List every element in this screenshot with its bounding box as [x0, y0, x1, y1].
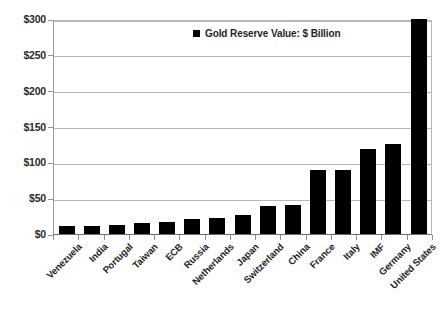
bar	[411, 19, 427, 234]
y-axis-tick-label: $50	[2, 193, 46, 203]
bar	[134, 223, 150, 234]
bar-slot	[205, 21, 230, 234]
y-axis-tick-mark	[48, 91, 53, 92]
x-axis-tick-mark	[432, 235, 433, 240]
y-axis-tick-mark	[48, 127, 53, 128]
bar-slot	[180, 21, 205, 234]
bar	[385, 144, 401, 234]
bar	[159, 222, 175, 234]
y-axis-tick-label: $200	[2, 86, 46, 96]
bar	[360, 149, 376, 234]
bar	[260, 206, 276, 234]
bar-slot	[356, 21, 381, 234]
y-axis-tick-mark	[48, 20, 53, 21]
bar-slot	[280, 21, 305, 234]
bar-slot	[230, 21, 255, 234]
y-axis-tick-label: $300	[2, 14, 46, 24]
legend-swatch-icon	[193, 30, 200, 37]
gold-reserve-bar-chart: $0$50$100$150$200$250$300 VenezuelaIndia…	[0, 0, 447, 313]
bar	[209, 218, 225, 234]
y-axis-tick-mark	[48, 163, 53, 164]
x-axis-label: IMF	[368, 241, 387, 260]
y-axis-tick-label: $150	[2, 122, 46, 132]
y-axis-tick-label: $250	[2, 50, 46, 60]
bar	[310, 170, 326, 234]
y-axis-tick-label: $0	[2, 229, 46, 239]
bar-slot	[255, 21, 280, 234]
bar	[285, 205, 301, 234]
bar	[235, 215, 251, 234]
bar-slot	[406, 21, 431, 234]
bar-slot	[104, 21, 129, 234]
bar	[335, 170, 351, 234]
legend-label: Gold Reserve Value: $ Billion	[205, 28, 340, 39]
plot-area	[53, 20, 432, 235]
bar-slot	[305, 21, 330, 234]
bar-slot	[331, 21, 356, 234]
bar	[109, 225, 125, 234]
bar-slot	[54, 21, 79, 234]
bar-slot	[155, 21, 180, 234]
x-axis-label: Taiwan	[130, 241, 160, 271]
chart-legend: Gold Reserve Value: $ Billion	[193, 28, 340, 39]
bar-slot	[381, 21, 406, 234]
x-axis-label: Venezuela	[44, 241, 84, 281]
bar-slot	[79, 21, 104, 234]
bar-slot	[129, 21, 154, 234]
y-axis-tick-mark	[48, 199, 53, 200]
x-axis-label: Italy	[341, 241, 362, 262]
x-axis-labels: VenezuelaIndiaPortugalTaiwanECBRussiaNet…	[53, 235, 432, 313]
bar-series	[54, 21, 431, 234]
bar	[59, 226, 75, 234]
y-axis-tick-mark	[48, 55, 53, 56]
bar	[84, 226, 100, 234]
x-axis-label: ECB	[163, 241, 185, 263]
x-axis-label: France	[307, 241, 336, 270]
y-axis-tick-label: $100	[2, 157, 46, 167]
bar	[184, 219, 200, 234]
